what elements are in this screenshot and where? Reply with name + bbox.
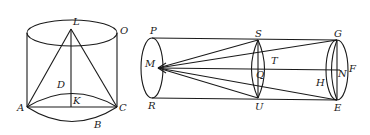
cylinder-cone-figure [27, 20, 117, 122]
label-T: T [271, 56, 278, 66]
label-H: H [316, 78, 325, 88]
bottom-generator-RE [152, 98, 337, 100]
label-O: O [120, 26, 128, 36]
label-S: S [255, 29, 262, 39]
axis-MN [158, 68, 340, 70]
label-P: P [150, 26, 157, 36]
label-E: E [334, 103, 341, 113]
label-N: N [338, 69, 347, 79]
geometry-drawing [0, 0, 370, 135]
label-R: R [148, 101, 156, 111]
top-generator-PG [152, 38, 337, 40]
label-G: G [334, 29, 342, 39]
label-C: C [119, 103, 127, 113]
label-D: D [57, 80, 65, 90]
label-U: U [255, 102, 263, 112]
label-M: M [145, 59, 155, 69]
bottom-front-arc [27, 107, 117, 122]
cone-side-LA [27, 29, 71, 107]
label-Q: Q [256, 70, 264, 80]
diagram-canvas: L O D K A C B P M R S T Q U G H N F E [0, 0, 370, 135]
label-B: B [94, 120, 101, 130]
label-F: F [349, 64, 356, 74]
horizontal-cylinder-figure [141, 38, 348, 100]
label-A: A [17, 103, 24, 113]
label-K: K [73, 96, 80, 106]
ray-MG [158, 40, 337, 68]
ray-MS [158, 40, 258, 68]
label-L: L [73, 17, 80, 27]
top-ellipse [27, 20, 117, 46]
bottom-back-arc [27, 94, 117, 108]
